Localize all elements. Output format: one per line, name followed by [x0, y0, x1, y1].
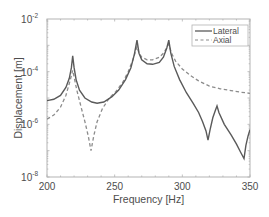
legend: Lateral Axial: [192, 25, 248, 46]
chart: 10-2 10-4 10-6 10-8 200 250 300 350 Freq…: [0, 0, 269, 217]
x-axis-label: Frequency [Hz]: [113, 193, 184, 205]
y-tick-1e-2: 10-2: [21, 12, 38, 25]
x-tick-300: 300: [174, 181, 191, 192]
x-tick-labels: 200 250 300 350: [39, 181, 259, 192]
y-axis-label: Displacement [m]: [12, 57, 24, 138]
x-tick-200: 200: [39, 181, 56, 192]
legend-axial-label: Axial: [213, 35, 232, 45]
y-tick-1e-8: 10-8: [21, 170, 38, 183]
x-tick-350: 350: [242, 181, 259, 192]
x-tick-250: 250: [106, 181, 123, 192]
